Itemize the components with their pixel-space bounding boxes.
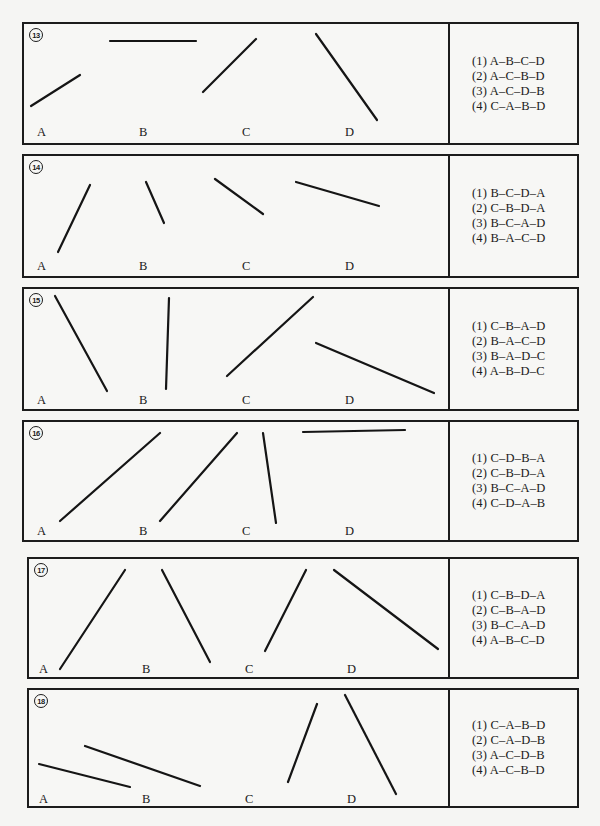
figure-panel: 13 ABCD	[24, 24, 450, 143]
line-segment-d	[316, 34, 377, 120]
figure-panel: 17 ABCD	[29, 559, 450, 677]
question-17: 17 ABCD (1) C–B–D–A(2) C–B–A–D(3) B–C–A–…	[27, 557, 579, 679]
segment-label-d: D	[345, 259, 354, 274]
line-segment-b	[160, 433, 237, 521]
options-panel: (1) B–C–D–A(2) C–B–D–A(3) B–C–A–D(4) B–A…	[450, 156, 577, 276]
segment-label-a: A	[37, 259, 46, 274]
segment-label-c: C	[245, 792, 253, 807]
options-panel: (1) C–B–A–D(2) B–A–C–D(3) B–A–D–C(4) A–B…	[450, 289, 577, 409]
figure-panel: 15 ABCD	[24, 289, 450, 409]
answer-option-4[interactable]: (4) A–C–B–D	[472, 763, 577, 778]
options-panel: (1) C–B–D–A(2) C–B–A–D(3) B–C–A–D(4) A–B…	[450, 559, 577, 677]
segment-label-a: A	[37, 125, 46, 140]
line-segment-c	[265, 570, 306, 651]
line-segment-a	[60, 570, 125, 669]
answer-option-1[interactable]: (1) A–B–C–D	[472, 54, 577, 69]
line-segment-a	[39, 764, 130, 787]
answer-option-2[interactable]: (2) C–B–A–D	[472, 603, 577, 618]
segment-label-d: D	[347, 792, 356, 807]
answer-option-2[interactable]: (2) C–B–D–A	[472, 466, 577, 481]
answer-option-4[interactable]: (4) C–A–B–D	[472, 99, 577, 114]
line-segments	[29, 690, 450, 810]
line-segment-a	[58, 185, 90, 252]
options-panel: (1) C–A–B–D(2) C–A–D–B(3) A–C–D–B(4) A–C…	[450, 690, 577, 806]
figure-panel: 14 ABCD	[24, 156, 450, 276]
figure-panel: 16 ABCD	[24, 422, 450, 540]
segment-label-a: A	[39, 662, 48, 677]
question-13: 13 ABCD (1) A–B–C–D(2) A–C–B–D(3) A–C–D–…	[22, 22, 579, 145]
answer-option-1[interactable]: (1) C–B–A–D	[472, 319, 577, 334]
answer-option-2[interactable]: (2) A–C–B–D	[472, 69, 577, 84]
answer-option-3[interactable]: (3) B–C–A–D	[472, 216, 577, 231]
answer-option-1[interactable]: (1) B–C–D–A	[472, 186, 577, 201]
line-segment-b	[166, 298, 169, 389]
answer-option-3[interactable]: (3) B–C–A–D	[472, 481, 577, 496]
segment-label-c: C	[242, 524, 250, 539]
answer-option-2[interactable]: (2) B–A–C–D	[472, 334, 577, 349]
line-segment-c	[203, 39, 256, 92]
line-segment-a	[60, 433, 160, 521]
figure-panel: 18 ABCD	[29, 690, 450, 806]
line-segment-c	[288, 704, 317, 782]
segment-label-d: D	[345, 393, 354, 408]
line-segment-c	[263, 433, 276, 523]
question-18: 18 ABCD (1) C–A–B–D(2) C–A–D–B(3) A–C–D–…	[27, 688, 579, 808]
segment-label-a: A	[37, 524, 46, 539]
answer-option-2[interactable]: (2) C–B–D–A	[472, 201, 577, 216]
line-segment-b	[146, 182, 164, 223]
answer-option-4[interactable]: (4) B–A–C–D	[472, 231, 577, 246]
answer-option-1[interactable]: (1) C–A–B–D	[472, 718, 577, 733]
line-segment-d	[334, 570, 438, 649]
question-15: 15 ABCD (1) C–B–A–D(2) B–A–C–D(3) B–A–D–…	[22, 287, 579, 411]
segment-label-b: B	[142, 662, 150, 677]
line-segments	[24, 24, 450, 147]
answer-option-1[interactable]: (1) C–B–D–A	[472, 588, 577, 603]
answer-option-4[interactable]: (4) A–B–D–C	[472, 364, 577, 379]
line-segments	[29, 559, 450, 681]
question-16: 16 ABCD (1) C–D–B–A(2) C–B–D–A(3) B–C–A–…	[22, 420, 579, 542]
segment-label-b: B	[139, 524, 147, 539]
line-segment-c	[227, 297, 313, 376]
segment-label-c: C	[242, 259, 250, 274]
segment-label-b: B	[139, 125, 147, 140]
segment-label-d: D	[345, 125, 354, 140]
segment-label-a: A	[37, 393, 46, 408]
line-segment-d	[316, 343, 434, 393]
line-segment-d	[296, 182, 379, 206]
line-segments	[24, 422, 450, 544]
line-segment-d	[345, 695, 396, 794]
segment-label-a: A	[39, 792, 48, 807]
segment-label-c: C	[242, 393, 250, 408]
segment-label-d: D	[347, 662, 356, 677]
answer-option-3[interactable]: (3) A–C–D–B	[472, 748, 577, 763]
question-14: 14 ABCD (1) B–C–D–A(2) C–B–D–A(3) B–C–A–…	[22, 154, 579, 278]
answer-option-4[interactable]: (4) A–B–C–D	[472, 633, 577, 648]
options-panel: (1) A–B–C–D(2) A–C–B–D(3) A–C–D–B(4) C–A…	[450, 24, 577, 143]
answer-option-1[interactable]: (1) C–D–B–A	[472, 451, 577, 466]
answer-option-3[interactable]: (3) A–C–D–B	[472, 84, 577, 99]
answer-option-2[interactable]: (2) C–A–D–B	[472, 733, 577, 748]
line-segment-b	[162, 570, 210, 662]
line-segment-a	[55, 296, 107, 391]
answer-option-3[interactable]: (3) B–C–A–D	[472, 618, 577, 633]
segment-label-c: C	[242, 125, 250, 140]
segment-label-c: C	[245, 662, 253, 677]
segment-label-d: D	[345, 524, 354, 539]
answer-option-4[interactable]: (4) C–D–A–B	[472, 496, 577, 511]
options-panel: (1) C–D–B–A(2) C–B–D–A(3) B–C–A–D(4) C–D…	[450, 422, 577, 540]
segment-label-b: B	[139, 259, 147, 274]
line-segment-a	[31, 75, 80, 106]
line-segments	[24, 289, 450, 413]
line-segment-d	[303, 430, 405, 432]
line-segments	[24, 156, 450, 280]
answer-option-3[interactable]: (3) B–A–D–C	[472, 349, 577, 364]
line-segment-c	[215, 179, 263, 214]
segment-label-b: B	[139, 393, 147, 408]
segment-label-b: B	[142, 792, 150, 807]
